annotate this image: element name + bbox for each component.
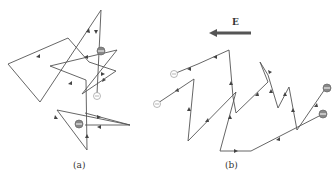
panel-b-charged-particle-upper xyxy=(323,84,331,92)
field-label: E xyxy=(232,17,239,27)
caption-a: (a) xyxy=(73,160,85,170)
panel-a-random-walk xyxy=(8,10,130,150)
panel-a-neutral-particle xyxy=(94,93,101,100)
field-arrow-E xyxy=(209,29,251,37)
panel-b-path-lower xyxy=(158,79,323,151)
panel-a-charged-particle-top xyxy=(97,47,105,55)
diagram-canvas xyxy=(0,0,336,178)
panel-a-charged-particle-bottom xyxy=(75,120,83,128)
panel-b-direction-arrows xyxy=(175,55,318,153)
caption-b: (b) xyxy=(225,160,238,170)
panel-b-charged-particle-lower xyxy=(319,110,327,118)
panel-b-neutral-particle-upper xyxy=(171,71,178,78)
panel-a-direction-arrows xyxy=(36,28,106,138)
panel-b-path-upper xyxy=(176,50,325,130)
panel-b-neutral-particle-lower xyxy=(154,101,161,108)
